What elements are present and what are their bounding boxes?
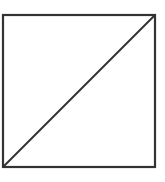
square-diagonal-diagram — [0, 0, 165, 182]
diagonal-line — [3, 15, 155, 167]
